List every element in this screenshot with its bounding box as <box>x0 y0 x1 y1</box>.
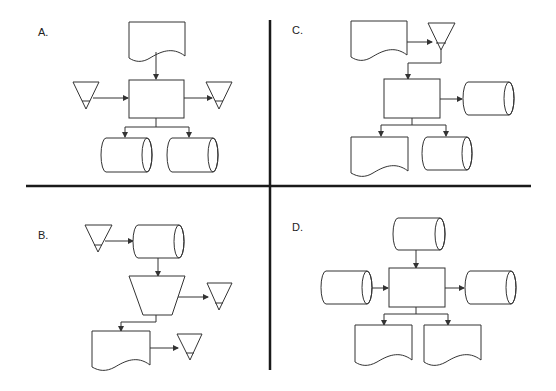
process-box <box>384 79 440 118</box>
document-shape <box>351 21 407 60</box>
process-box <box>129 80 184 118</box>
disk-shape <box>101 138 152 172</box>
document-shape <box>424 325 481 365</box>
panel-a <box>73 22 232 172</box>
disk-shape <box>465 271 516 304</box>
merge-triangle-icon <box>73 82 99 109</box>
document-shape <box>351 137 408 176</box>
panel-label-d: D. <box>292 221 303 233</box>
disk-shape <box>422 137 472 170</box>
manual-operation-trapezoid <box>129 276 185 315</box>
document-shape <box>129 22 185 61</box>
disk-shape <box>321 271 372 304</box>
flowchart-canvas <box>0 0 556 391</box>
merge-triangle-icon <box>207 283 232 310</box>
document-shape <box>355 325 412 365</box>
disk-shape <box>393 218 445 250</box>
panel-label-b: B. <box>38 229 48 241</box>
disk-shape <box>133 225 184 258</box>
merge-triangle-icon <box>177 334 202 360</box>
document-shape <box>92 331 150 370</box>
process-box <box>389 268 445 307</box>
panel-b <box>85 225 232 370</box>
disk-shape <box>167 138 218 172</box>
merge-triangle-icon <box>85 225 112 252</box>
merge-triangle-icon <box>206 82 232 109</box>
panel-label-c: C. <box>292 24 303 36</box>
merge-triangle-icon <box>428 23 455 50</box>
disk-shape <box>463 82 514 115</box>
panel-d <box>321 218 516 365</box>
panel-c <box>351 21 514 176</box>
panel-label-a: A. <box>38 26 48 38</box>
